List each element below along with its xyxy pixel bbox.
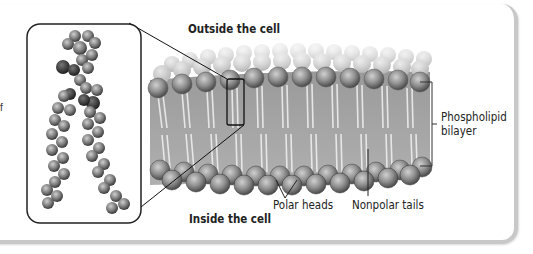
polar-heads-label: Polar heads [273, 198, 333, 212]
bilayer-label-line1: Phospholipid [441, 110, 507, 124]
bilayer-label-line2: bilayer [441, 124, 476, 138]
nonpolar-tails-label: Nonpolar tails [352, 198, 424, 212]
outside-cell-label: Outside the cell [188, 22, 280, 36]
inside-cell-label: Inside the cell [189, 212, 271, 226]
